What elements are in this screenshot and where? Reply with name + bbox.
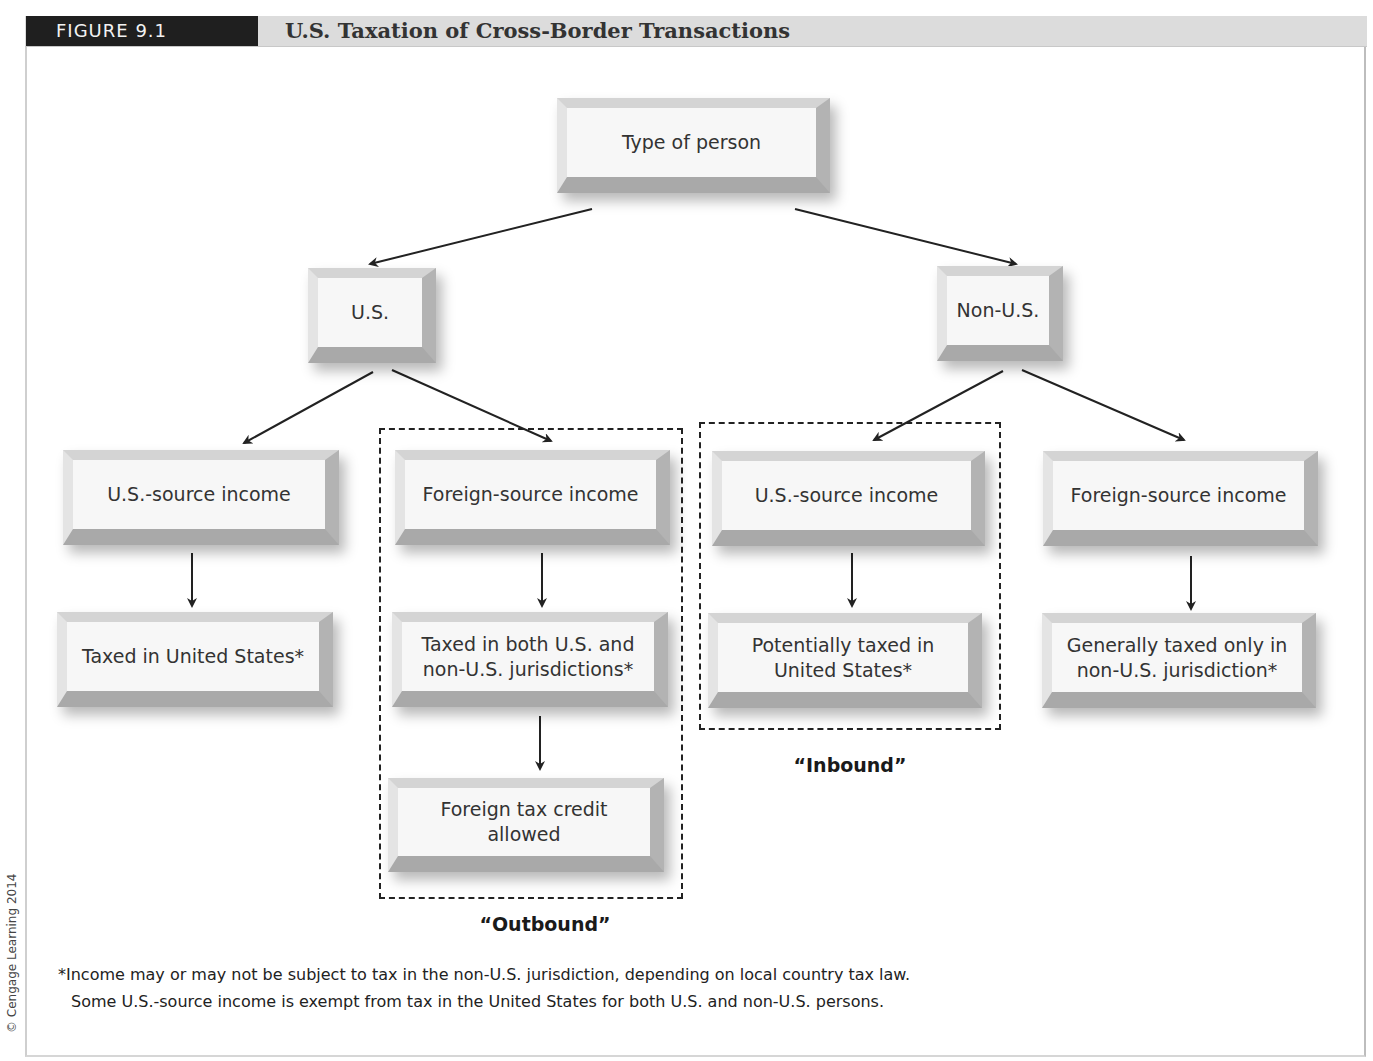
node-label: U.S.-source income <box>722 461 971 530</box>
node-label: Non-U.S. <box>947 276 1049 345</box>
node-nonus-foreign-source-income: Foreign-source income <box>1043 451 1318 546</box>
footnote-line-2: Some U.S.-source income is exempt from t… <box>58 988 910 1015</box>
arrow-nonus-to-foreign-source <box>1022 370 1184 440</box>
arrow-root-to-nonus <box>795 209 1016 264</box>
footnote-line-1: *Income may or may not be subject to tax… <box>58 965 910 984</box>
node-label: U.S.-source income <box>73 460 325 529</box>
node-label: Taxed in both U.S. and non-U.S. jurisdic… <box>402 622 654 691</box>
node-nonus-us-source-income: U.S.-source income <box>712 451 985 546</box>
node-type-of-person: Type of person <box>557 98 830 193</box>
inbound-label: “Inbound” <box>735 754 965 776</box>
node-potentially-taxed-us: Potentially taxed in United States* <box>708 613 982 708</box>
node-taxed-in-both: Taxed in both U.S. and non-U.S. jurisdic… <box>392 612 668 707</box>
arrow-us-to-foreign-source <box>392 370 551 441</box>
outbound-label: “Outbound” <box>430 913 660 935</box>
node-label: U.S. <box>318 278 422 347</box>
node-label: Type of person <box>567 108 816 177</box>
node-foreign-tax-credit: Foreign tax credit allowed <box>388 778 664 872</box>
node-label: Foreign-source income <box>1053 461 1304 530</box>
arrow-us-to-us-source <box>244 372 373 443</box>
node-us-foreign-source-income: Foreign-source income <box>395 450 670 545</box>
node-label: Potentially taxed in United States* <box>718 623 968 692</box>
node-non-us-person: Non-U.S. <box>937 266 1063 361</box>
arrow-nonus-to-us-source <box>874 371 1003 440</box>
node-label: Foreign-source income <box>405 460 656 529</box>
node-generally-taxed-non-us: Generally taxed only in non-U.S. jurisdi… <box>1042 613 1316 708</box>
node-us-us-source-income: U.S.-source income <box>63 450 339 545</box>
node-label: Foreign tax credit allowed <box>398 788 650 856</box>
node-label: Taxed in United States* <box>67 622 319 691</box>
node-us-person: U.S. <box>308 268 436 363</box>
copyright-notice: © Cengage Learning 2014 <box>5 913 19 1033</box>
node-taxed-in-united-states: Taxed in United States* <box>57 612 333 707</box>
arrow-root-to-us <box>370 209 592 264</box>
footnote: *Income may or may not be subject to tax… <box>58 961 910 1015</box>
node-label: Generally taxed only in non-U.S. jurisdi… <box>1052 623 1302 692</box>
